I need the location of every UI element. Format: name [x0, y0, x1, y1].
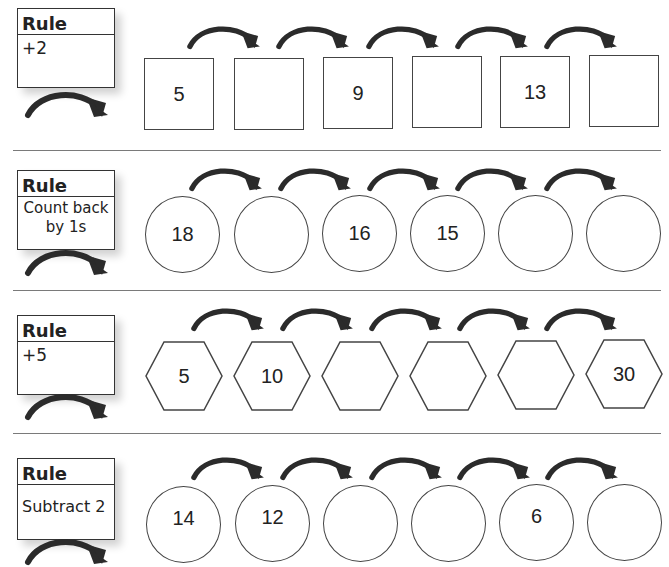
- sequence-cell[interactable]: [589, 55, 659, 127]
- curved-arrow-right-icon: [22, 86, 112, 120]
- sequence-cell[interactable]: [321, 341, 399, 411]
- curved-arrow-right-icon: [452, 164, 532, 192]
- sequence-cell[interactable]: [586, 195, 661, 272]
- curved-arrow-right-icon: [188, 304, 268, 332]
- sequence-cell[interactable]: 18: [145, 196, 220, 273]
- curved-arrow-right-icon: [366, 304, 446, 332]
- sequence-cell[interactable]: 15: [410, 195, 485, 272]
- row-add-2: Rule +2 5 9 13: [0, 0, 669, 150]
- rule-box: Rule +5: [17, 315, 115, 395]
- rule-text: Subtract 2: [18, 485, 114, 520]
- curved-arrow-right-icon: [277, 304, 357, 332]
- sequence-cell[interactable]: [587, 484, 662, 561]
- curved-arrow-right-icon: [273, 22, 353, 50]
- curved-arrow-right-icon: [22, 533, 112, 567]
- sequence-cell[interactable]: 10: [233, 341, 311, 411]
- curved-arrow-right-icon: [188, 453, 268, 481]
- sequence-cell[interactable]: 6: [499, 484, 574, 561]
- sequence-cell[interactable]: 14: [146, 486, 221, 563]
- sequence-cell[interactable]: 5: [144, 58, 214, 130]
- rule-box: Rule Count back by 1s: [17, 170, 115, 250]
- sequence-cell[interactable]: [234, 196, 309, 273]
- curved-arrow-right-icon: [454, 453, 534, 481]
- sequence-cell[interactable]: 30: [585, 339, 663, 409]
- rule-title: Rule: [18, 171, 114, 197]
- curved-arrow-right-icon: [366, 453, 446, 481]
- curved-arrow-right-icon: [542, 453, 622, 481]
- curved-arrow-right-icon: [186, 164, 266, 192]
- rule-box: Rule +2: [17, 8, 115, 88]
- sequence-cell[interactable]: 16: [322, 195, 397, 272]
- curved-arrow-right-icon: [363, 22, 443, 50]
- rule-text: +5: [18, 342, 114, 369]
- sequence-cell[interactable]: [409, 341, 487, 411]
- rule-title: Rule: [18, 459, 114, 485]
- curved-arrow-right-icon: [541, 164, 621, 192]
- hexagon-shape: [409, 341, 487, 411]
- sequence-cell[interactable]: 13: [500, 56, 570, 128]
- rule-box: Rule Subtract 2: [17, 458, 115, 540]
- sequence-cell[interactable]: 12: [235, 485, 310, 562]
- hexagon-shape: [497, 340, 575, 410]
- rule-text: Count back by 1s: [18, 197, 114, 239]
- sequence-cell[interactable]: [497, 340, 575, 410]
- sequence-cell[interactable]: 5: [145, 341, 223, 411]
- sequence-cell[interactable]: [234, 58, 304, 130]
- sequence-cell[interactable]: [498, 195, 573, 272]
- row-subtract-2: Rule Subtract 2 14 12 6: [0, 433, 669, 545]
- sequence-cell[interactable]: [412, 56, 482, 128]
- curved-arrow-right-icon: [454, 304, 534, 332]
- sequence-cell[interactable]: [323, 485, 398, 562]
- row-add-5: Rule +5 5 10 30: [0, 290, 669, 433]
- curved-arrow-right-icon: [277, 453, 357, 481]
- curved-arrow-right-icon: [22, 244, 112, 278]
- rule-title: Rule: [18, 9, 114, 35]
- sequence-cell[interactable]: [411, 485, 486, 562]
- row-count-back: Rule Count back by 1s 18 16 15: [0, 150, 669, 290]
- curved-arrow-right-icon: [541, 304, 621, 332]
- curved-arrow-right-icon: [364, 164, 444, 192]
- curved-arrow-right-icon: [452, 22, 532, 50]
- sequence-cell[interactable]: 9: [323, 57, 393, 129]
- curved-arrow-right-icon: [275, 164, 355, 192]
- curved-arrow-right-icon: [184, 22, 264, 50]
- curved-arrow-right-icon: [541, 22, 621, 50]
- rule-text: +2: [18, 35, 114, 62]
- curved-arrow-right-icon: [22, 388, 112, 422]
- rule-title: Rule: [18, 316, 114, 342]
- hexagon-shape: [321, 341, 399, 411]
